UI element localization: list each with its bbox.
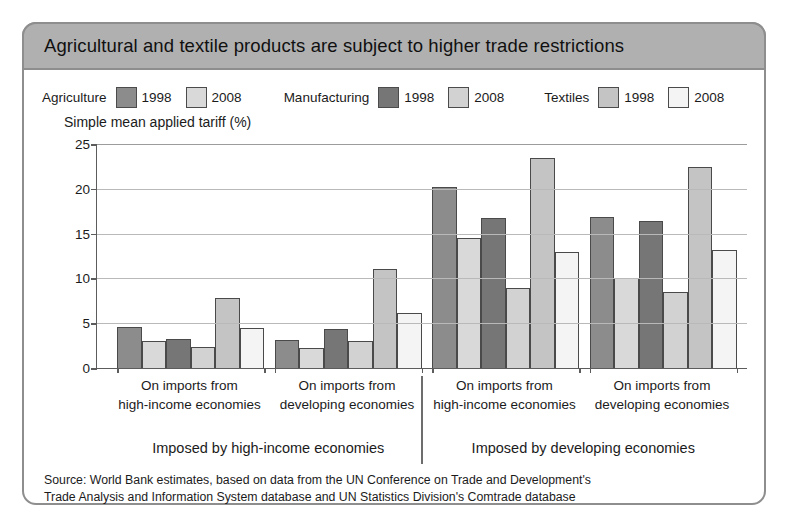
legend-year-label: 2008 — [474, 90, 504, 105]
x-tick-mark — [579, 368, 581, 373]
y-axis-tick-15: 15 — [75, 226, 90, 241]
x-tick-mark — [432, 368, 434, 373]
bar-manufacturing-2008-g2 — [348, 341, 373, 368]
legend-group-manufacturing: Manufacturing19982008 — [284, 87, 505, 108]
bar-manufacturing-2008-g1 — [191, 347, 216, 369]
chart-legend: Agriculture19982008Manufacturing19982008… — [42, 84, 748, 110]
legend-year-label: 2008 — [212, 90, 242, 105]
legend-swatch-icon — [668, 87, 689, 108]
legend-year-label: 2008 — [694, 90, 724, 105]
x-tick-mark — [590, 368, 592, 373]
bar-agriculture-2008-g2 — [299, 348, 324, 368]
y-tick-mark-5 — [91, 323, 97, 325]
y-tick-mark-20 — [91, 189, 97, 191]
gridline-20 — [97, 189, 747, 190]
bar-textiles-1998-g4 — [688, 167, 713, 368]
bar-textiles-2008-g1 — [240, 328, 265, 368]
legend-category-label: Textiles — [544, 90, 589, 105]
gridline-25 — [97, 144, 747, 145]
category-label-line: On imports from — [118, 376, 261, 395]
y-axis-tick-0: 0 — [82, 361, 90, 376]
y-tick-mark-0 — [91, 368, 97, 370]
y-axis-title: Simple mean applied tariff (%) — [64, 114, 251, 130]
bar-group-3 — [432, 144, 579, 368]
bar-agriculture-1998-g1 — [117, 327, 142, 368]
y-tick-mark-10 — [91, 278, 97, 280]
x-axis-category-label-1: On imports fromhigh-income economies — [118, 376, 261, 414]
x-axis-category-label-3: On imports fromhigh-income economies — [433, 376, 576, 414]
legend-year-label: 1998 — [624, 90, 654, 105]
plot-canvas — [96, 144, 747, 369]
plot-area: 0510152025 — [64, 144, 746, 384]
category-label-line: developing economies — [280, 395, 414, 414]
y-axis-tick-5: 5 — [82, 316, 90, 331]
legend-category-label: Manufacturing — [284, 90, 370, 105]
bar-group-1 — [117, 144, 264, 368]
bar-textiles-2008-g4 — [712, 250, 737, 368]
y-tick-mark-15 — [91, 234, 97, 236]
bar-manufacturing-2008-g3 — [506, 288, 531, 368]
legend-category-label: Agriculture — [42, 90, 107, 105]
bar-textiles-2008-g3 — [555, 252, 580, 368]
x-axis-super-labels: Imposed by high-income economiesImposed … — [96, 440, 746, 462]
figure-panel: Agricultural and textile products are su… — [22, 22, 766, 505]
x-axis-super-label-2: Imposed by developing economies — [472, 440, 695, 456]
x-tick-mark — [117, 368, 119, 373]
legend-year-label: 1998 — [142, 90, 172, 105]
bar-agriculture-2008-g3 — [457, 238, 482, 368]
x-axis-super-label-1: Imposed by high-income economies — [152, 440, 384, 456]
bar-manufacturing-1998-g4 — [639, 221, 664, 368]
x-axis-category-label-4: On imports fromdeveloping economies — [595, 376, 729, 414]
y-axis-tick-labels: 0510152025 — [64, 144, 90, 368]
page-title: Agricultural and textile products are su… — [24, 35, 624, 57]
legend-year-label: 1998 — [404, 90, 434, 105]
bar-group-2 — [275, 144, 422, 368]
category-label-line: high-income economies — [118, 395, 261, 414]
x-tick-mark — [264, 368, 266, 373]
x-axis-category-label-2: On imports fromdeveloping economies — [280, 376, 414, 414]
y-axis-tick-20: 20 — [75, 181, 90, 196]
bar-textiles-1998-g1 — [215, 298, 240, 368]
category-label-line: On imports from — [595, 376, 729, 395]
gridline-15 — [97, 234, 747, 235]
bar-manufacturing-1998-g2 — [324, 329, 349, 368]
gridline-5 — [97, 323, 747, 324]
x-tick-mark — [422, 368, 424, 373]
legend-swatch-icon — [378, 87, 399, 108]
gridline-10 — [97, 278, 747, 279]
bar-textiles-2008-g2 — [397, 313, 422, 368]
bar-manufacturing-1998-g1 — [166, 339, 191, 368]
bar-agriculture-1998-g2 — [275, 340, 300, 368]
category-label-line: On imports from — [280, 376, 414, 395]
legend-swatch-icon — [598, 87, 619, 108]
legend-swatch-icon — [186, 87, 207, 108]
x-tick-mark — [737, 368, 739, 373]
source-line-1: Source: World Bank estimates, based on d… — [44, 472, 744, 489]
bar-group-4 — [590, 144, 737, 368]
bar-textiles-1998-g2 — [373, 269, 398, 368]
legend-swatch-icon — [116, 87, 137, 108]
legend-group-textiles: Textiles19982008 — [544, 87, 724, 108]
bar-agriculture-1998-g4 — [590, 217, 615, 368]
y-tick-mark-25 — [91, 144, 97, 146]
source-note: Source: World Bank estimates, based on d… — [44, 472, 744, 506]
legend-group-agriculture: Agriculture19982008 — [42, 87, 242, 108]
category-label-line: developing economies — [595, 395, 729, 414]
source-line-2: Trade Analysis and Information System da… — [44, 489, 744, 506]
bar-agriculture-2008-g1 — [142, 341, 167, 368]
legend-swatch-icon — [448, 87, 469, 108]
bar-manufacturing-2008-g4 — [663, 292, 688, 368]
category-label-line: high-income economies — [433, 395, 576, 414]
bar-series-container — [97, 144, 747, 368]
bar-manufacturing-1998-g3 — [481, 218, 506, 368]
category-label-line: On imports from — [433, 376, 576, 395]
x-tick-mark — [275, 368, 277, 373]
y-axis-tick-25: 25 — [75, 137, 90, 152]
figure-title-band: Agricultural and textile products are su… — [22, 22, 766, 70]
y-axis-tick-10: 10 — [75, 271, 90, 286]
